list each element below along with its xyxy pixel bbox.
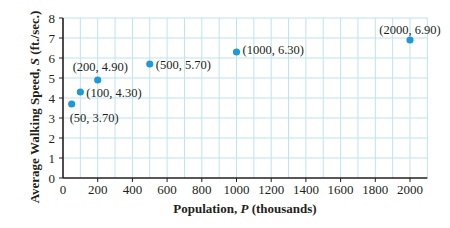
y-tick-label: 2 xyxy=(49,131,56,146)
y-axis-ticks: 012345678 xyxy=(49,11,64,186)
data-point xyxy=(77,88,84,95)
y-tick-label: 7 xyxy=(49,31,56,46)
data-point-label: (200, 4.90) xyxy=(73,60,128,74)
x-axis-ticks: 0200400600800100012001400160018002000 xyxy=(60,178,423,197)
x-tick-label: 1400 xyxy=(293,182,319,197)
data-point xyxy=(233,48,240,55)
x-tick-label: 1000 xyxy=(224,182,250,197)
x-tick-label: 1200 xyxy=(258,182,284,197)
data-point xyxy=(146,60,153,67)
x-tick-label: 2000 xyxy=(397,182,423,197)
data-point-label: (500, 5.70) xyxy=(156,58,211,72)
data-point-label: (2000, 6.90) xyxy=(379,23,440,37)
data-point-label: (100, 4.30) xyxy=(86,86,141,100)
y-tick-label: 4 xyxy=(49,91,56,106)
y-tick-label: 3 xyxy=(49,111,56,126)
x-tick-label: 600 xyxy=(157,182,177,197)
y-tick-label: 5 xyxy=(49,71,56,86)
x-axis-title: Population, P (thousands) xyxy=(173,201,316,216)
data-point xyxy=(94,76,101,83)
data-point xyxy=(68,100,75,107)
x-tick-label: 200 xyxy=(88,182,108,197)
data-point-label: (1000, 6.30) xyxy=(243,43,304,57)
x-tick-label: 400 xyxy=(123,182,143,197)
y-tick-label: 6 xyxy=(49,51,56,66)
x-tick-label: 0 xyxy=(60,182,67,197)
y-axis-title: Average Walking Speed, S (ft./sec.) xyxy=(27,11,42,204)
x-tick-label: 1800 xyxy=(362,182,388,197)
y-tick-label: 1 xyxy=(49,151,56,166)
y-tick-label: 8 xyxy=(49,11,56,26)
y-tick-label: 0 xyxy=(49,171,56,186)
scatter-chart: 0200400600800100012001400160018002000 01… xyxy=(0,0,450,228)
x-tick-label: 1600 xyxy=(328,182,354,197)
data-point xyxy=(406,36,413,43)
x-tick-label: 800 xyxy=(192,182,212,197)
data-point-label: (50, 3.70) xyxy=(70,111,119,125)
